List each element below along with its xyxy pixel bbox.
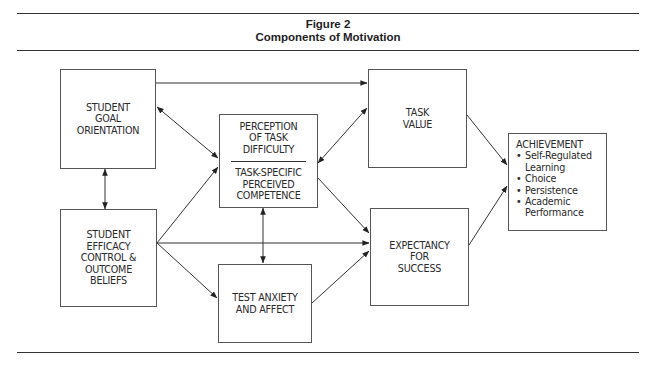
box-label: TASK-SPECIFIC: [235, 167, 301, 179]
achievement-item-text: Self-Regulated: [525, 150, 592, 161]
box-label: ORIENTATION: [77, 125, 139, 137]
box-task-value: TASK VALUE: [368, 69, 467, 168]
achievement-item: Self-Regulated Learning: [516, 150, 602, 173]
achievement-list: Self-Regulated Learning Choice Persisten…: [516, 150, 602, 218]
box-achievement: ACHIEVEMENT Self-Regulated Learning Choi…: [508, 133, 607, 231]
box-label: SUCCESS: [398, 263, 441, 275]
box-efficacy-beliefs: STUDENT EFFICACY CONTROL & OUTCOME BELIE…: [60, 209, 157, 307]
achievement-item: Choice: [516, 173, 602, 184]
achievement-item-text: Academic: [525, 196, 570, 207]
arrow-efficacy-perception: [157, 167, 218, 243]
achievement-item-text: Persistence: [525, 185, 578, 196]
arrow-expectancy-achievement: [469, 186, 507, 245]
achievement-item-text: Learning: [525, 162, 565, 173]
box-test-anxiety: TEST ANXIETY AND AFFECT: [218, 264, 312, 343]
box-expectancy: EXPECTANCY FOR SUCCESS: [370, 208, 469, 306]
box-label: AND AFFECT: [236, 304, 294, 316]
box-label: PERCEIVED: [243, 179, 295, 191]
arrow-goal-perception: [157, 107, 218, 158]
achievement-item: Academic Performance: [516, 196, 602, 219]
box-label: OF TASK: [249, 132, 288, 144]
box-label: EFFICACY: [87, 241, 131, 253]
box-label: BELIEFS: [90, 275, 127, 287]
box-label: TEST ANXIETY: [232, 292, 297, 304]
box-goal-orientation: STUDENT GOAL ORIENTATION: [60, 69, 156, 169]
arrow-perception-expectancy: [318, 178, 369, 233]
arrow-perception-value: [318, 108, 367, 163]
box-label: VALUE: [403, 119, 432, 131]
box-label: STUDENT: [86, 229, 130, 241]
achievement-item-text: Choice: [525, 173, 556, 184]
box-label: CONTROL &: [81, 252, 137, 264]
box-perception-competence: PERCEPTION OF TASK DIFFICULTY TASK-SPECI…: [219, 114, 318, 208]
box-label: PERCEPTION: [240, 121, 298, 133]
box-label: FOR: [410, 251, 429, 263]
arrow-efficacy-anxiety: [157, 243, 217, 298]
box-label: OUTCOME: [85, 264, 132, 276]
box-label: COMPETENCE: [236, 190, 300, 202]
arrow-value-achievement: [467, 115, 507, 165]
achievement-item-text: Performance: [525, 207, 584, 218]
box-label: TASK: [406, 107, 429, 119]
box-label: STUDENT: [86, 102, 130, 114]
box-label: GOAL: [95, 113, 121, 125]
box-label: DIFFICULTY: [243, 144, 295, 156]
achievement-item: Persistence: [516, 185, 602, 196]
box-divider: [231, 161, 307, 162]
achievement-title: ACHIEVEMENT: [516, 139, 602, 150]
arrow-anxiety-expectancy: [312, 251, 369, 303]
box-label: EXPECTANCY: [389, 240, 449, 252]
